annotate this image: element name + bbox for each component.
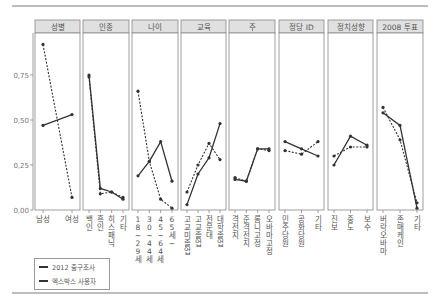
data-point <box>349 145 352 148</box>
data-point <box>245 180 248 183</box>
x-tick-label-char: 수 <box>364 223 371 232</box>
y-tick-label: 0,25 <box>13 162 29 170</box>
facet-title: 나이 <box>148 22 162 32</box>
x-tick-label-char: 보 <box>331 223 338 232</box>
data-point <box>185 190 188 193</box>
facet-panel <box>229 33 275 210</box>
data-point <box>300 153 303 156</box>
x-tick-label-char: 대 <box>206 231 213 240</box>
data-point <box>207 156 210 159</box>
bottom-rule <box>12 292 428 294</box>
x-tick-label: 여성 <box>65 214 79 224</box>
data-point <box>70 113 73 116</box>
facet-title: 성별 <box>51 22 65 32</box>
data-point <box>332 154 335 157</box>
facet-panel <box>83 33 129 210</box>
data-point <box>87 75 90 78</box>
data-point <box>185 203 188 206</box>
x-tick-label-char: 인 <box>86 222 93 232</box>
solid-line-swatch-icon <box>39 266 48 268</box>
facet-title: 교육 <box>197 23 211 32</box>
dashed-line-swatch-icon <box>39 280 48 282</box>
data-point <box>398 138 401 141</box>
x-tick-label-char: 정 <box>266 246 273 256</box>
legend-label-dashed: 엑스박스 사용자 <box>52 276 96 286</box>
data-point <box>256 147 259 150</box>
x-tick-label-char: 도 <box>347 223 354 232</box>
data-point <box>398 124 401 127</box>
data-point <box>316 140 319 143</box>
data-point <box>148 160 151 163</box>
data-point <box>233 176 236 179</box>
x-tick-label-char: 지 <box>232 231 239 240</box>
data-point <box>381 106 384 109</box>
facet-panel <box>377 33 423 210</box>
x-tick-label-char: 타 <box>414 223 421 232</box>
legend-item-solid: 2012 출구조사 <box>39 261 109 273</box>
x-tick-label-char: 업 <box>195 239 202 248</box>
x-tick-label-char: 세 <box>135 255 142 264</box>
data-point <box>283 140 286 143</box>
data-point <box>207 142 210 145</box>
data-point <box>159 198 162 201</box>
facet-title: 주 <box>249 23 256 32</box>
facet-title: 정치성향 <box>337 22 365 32</box>
y-tick-label: 0,50 <box>13 117 29 125</box>
data-point <box>196 163 199 166</box>
data-point <box>41 124 44 127</box>
data-point <box>415 207 418 210</box>
facet-panel <box>279 33 324 210</box>
y-tick-label: 0,75 <box>13 72 29 80</box>
data-point <box>121 196 124 199</box>
facet-panel <box>181 33 226 210</box>
x-tick-label-char: 업 <box>184 247 191 256</box>
data-point <box>41 43 44 46</box>
y-tick-label: 0,00 <box>13 207 29 215</box>
x-tick-label-char: 업 <box>217 239 224 248</box>
data-point <box>159 140 162 143</box>
legend-label-solid: 2012 출구조사 <box>52 262 95 272</box>
data-point <box>415 201 418 204</box>
x-tick-label-char: 세 <box>146 255 153 264</box>
data-point <box>170 207 173 210</box>
facet-title: 인종 <box>99 22 113 32</box>
x-tick-label: 남성 <box>36 215 50 224</box>
x-tick-label-char: 타 <box>120 223 127 232</box>
data-point <box>170 180 173 183</box>
x-tick-label-char: 인 <box>97 222 104 232</box>
x-tick-label-char: 원 <box>298 239 305 248</box>
data-point <box>218 122 221 125</box>
data-point <box>218 158 221 161</box>
legend: 2012 출구조사 엑스박스 사용자 <box>34 258 110 290</box>
legend-item-dashed: 엑스박스 사용자 <box>39 275 109 287</box>
facet-title: 2008 투표 <box>382 23 417 32</box>
data-point <box>136 174 139 177</box>
data-point <box>99 192 102 195</box>
data-point <box>332 163 335 166</box>
data-point <box>381 111 384 114</box>
faceted-line-chart: 0,000,250,500,75성별남성여성인종백인흑인히스패닉기타나이18~2… <box>0 0 438 290</box>
data-point <box>267 149 270 152</box>
data-point <box>349 135 352 138</box>
x-tick-label-char: 정 <box>254 238 261 248</box>
x-tick-label-char: 닉 <box>108 239 115 248</box>
data-point <box>365 145 368 148</box>
x-tick-label-char: 타 <box>315 223 322 232</box>
facet-panel <box>328 33 373 210</box>
facet-panel <box>132 33 178 210</box>
x-tick-label-char: 원 <box>282 239 289 248</box>
data-point <box>196 172 199 175</box>
x-tick-label-char: 인 <box>397 238 404 248</box>
x-tick-label-char: ~ <box>169 239 175 248</box>
x-tick-label-char: 지 <box>243 239 250 248</box>
data-point <box>110 190 113 193</box>
data-point <box>70 196 73 199</box>
data-point <box>316 154 319 157</box>
x-tick-label-char: 세 <box>157 255 164 264</box>
x-tick-label-char: 마 <box>380 247 387 256</box>
data-point <box>283 149 286 152</box>
facet-title: 정당 ID <box>289 22 314 32</box>
data-point <box>300 147 303 150</box>
data-point <box>136 90 139 93</box>
